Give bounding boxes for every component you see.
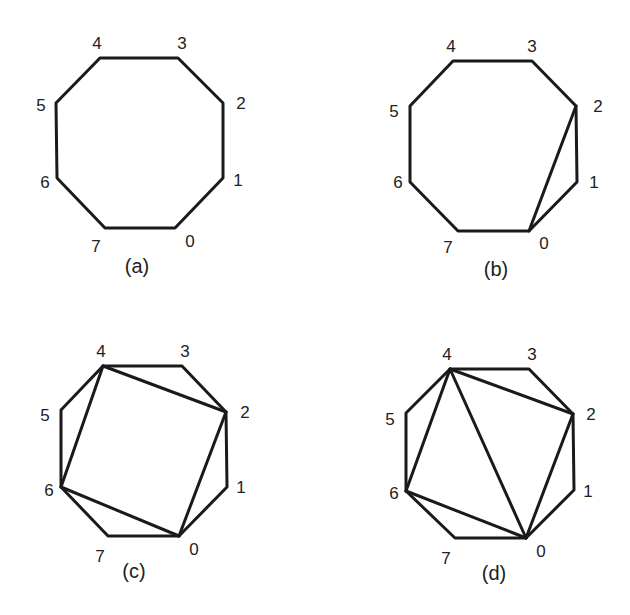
vertex-label-7: 7 <box>443 238 452 257</box>
vertex-label-2: 2 <box>236 94 245 113</box>
vertex-label-6: 6 <box>44 481 53 500</box>
vertex-label-4: 4 <box>92 34 101 53</box>
octagon-outline <box>410 61 577 231</box>
panel-caption: (a) <box>125 255 149 277</box>
vertex-label-2: 2 <box>593 97 602 116</box>
vertex-label-0: 0 <box>536 542 545 561</box>
vertex-label-3: 3 <box>527 37 536 56</box>
vertex-label-3: 3 <box>180 342 189 361</box>
vertex-label-7: 7 <box>91 237 100 256</box>
diagonal-0-2 <box>529 106 576 231</box>
vertex-label-1: 1 <box>589 173 598 192</box>
vertex-label-5: 5 <box>40 406 49 425</box>
octagon-outline <box>56 58 223 228</box>
octagon-outline <box>61 366 227 536</box>
diagonal-2-4 <box>103 366 226 412</box>
panel-a-plain-octagon: 01234567(a) <box>36 34 245 277</box>
vertex-label-5: 5 <box>36 96 45 115</box>
vertex-label-1: 1 <box>236 478 245 497</box>
vertex-label-5: 5 <box>389 102 398 121</box>
panel-c-inscribed-square: 01234567(c) <box>40 342 249 582</box>
octagon-triangulation-figure: 01234567(a) 01234567(b) 01234567(c) 0123… <box>0 0 630 615</box>
vertex-label-0: 0 <box>185 232 194 251</box>
octagon-outline <box>406 369 574 538</box>
diagonal-6-0 <box>61 487 179 536</box>
panel-caption: (b) <box>484 258 508 280</box>
diagonal-0-2 <box>179 412 226 536</box>
vertex-label-3: 3 <box>527 345 536 364</box>
panel-caption: (d) <box>482 562 506 584</box>
vertex-label-2: 2 <box>240 403 249 422</box>
vertex-label-0: 0 <box>189 540 198 559</box>
vertex-label-6: 6 <box>40 173 49 192</box>
vertex-label-0: 0 <box>539 234 548 253</box>
diagonal-4-6 <box>61 366 103 487</box>
vertex-label-4: 4 <box>442 345 451 364</box>
vertex-label-5: 5 <box>385 410 394 429</box>
vertex-label-1: 1 <box>233 171 242 190</box>
vertex-label-6: 6 <box>389 484 398 503</box>
panel-b-one-diagonal: 01234567(b) <box>389 37 602 280</box>
vertex-label-3: 3 <box>177 34 186 53</box>
diagonal-0-2 <box>526 414 573 538</box>
vertex-label-1: 1 <box>583 482 592 501</box>
vertex-label-4: 4 <box>446 37 455 56</box>
diagonal-4-6 <box>406 369 450 491</box>
vertex-label-2: 2 <box>586 405 595 424</box>
vertex-label-4: 4 <box>96 342 105 361</box>
vertex-label-7: 7 <box>441 549 450 568</box>
panel-d-full-triangulation: 01234567(d) <box>385 345 595 584</box>
panel-caption: (c) <box>122 560 145 582</box>
vertex-label-7: 7 <box>95 547 104 566</box>
vertex-label-6: 6 <box>393 173 402 192</box>
